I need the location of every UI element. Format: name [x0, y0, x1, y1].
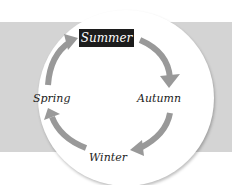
arrowhead-winter-icon [130, 140, 144, 156]
node-spring: Spring [33, 92, 70, 105]
node-autumn: Autumn [137, 92, 181, 105]
node-winter: Winter [89, 151, 127, 164]
arrow-winter-spring-icon [52, 117, 86, 148]
arrow-autumn-winter-icon [140, 113, 170, 148]
node-summer: Summer [79, 29, 134, 47]
arrowhead-autumn-icon [160, 74, 180, 88]
arrow-spring-summer-icon [48, 42, 70, 85]
arrow-summer-autumn-icon [140, 40, 170, 78]
